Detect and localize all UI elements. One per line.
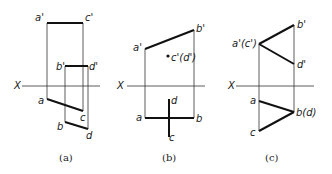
caption-a: (a) [59,152,73,163]
label-a-prime: a' [35,12,44,23]
label-d: d [86,130,93,141]
label-a: a [250,95,256,106]
label-b-d: b(d) [296,107,317,118]
label-b-prime: b' [56,61,65,72]
label-b-prime: b' [297,19,306,30]
line-a-b-top [259,101,294,112]
line-b-d-top [65,122,88,129]
label-b-prime: b' [196,23,205,34]
label-c: c [169,132,175,143]
label-c-prime: c' [85,12,93,23]
line-a-b-front [259,25,294,44]
label-a: a [136,112,142,123]
label-a-c-prime: a'(c') [232,38,257,49]
label-d: d [171,95,178,106]
panel-a: X a' c' b' d' a c b d (a) [13,12,100,163]
line-c-d-front [259,44,294,64]
panel-b: X a' b' c'(d') a b d c (b) [116,23,205,163]
point-c-d-front [166,54,169,57]
caption-c: (c) [265,152,279,163]
line-a-b-front [145,30,194,49]
caption-b: (b) [162,152,176,163]
label-d-prime: d' [89,61,98,72]
label-d-prime: d' [297,59,306,70]
panel-c: X a'(c') b' d' a b(d) c (c) [227,19,317,163]
label-c: c [250,127,256,138]
label-b: b [57,121,63,132]
label-a: a [38,95,44,106]
label-a-prime: a' [133,42,142,53]
projection-diagram: X a' c' b' d' a c b d (a) X a' b' c'(d')… [0,0,332,174]
label-c-d-prime: c'(d') [171,52,196,63]
x-axis-label: X [13,80,22,91]
line-c-d-top [259,112,294,131]
x-axis-label: X [227,80,236,91]
x-axis-label: X [116,80,125,91]
label-c: c [80,112,86,123]
label-b: b [196,113,202,124]
